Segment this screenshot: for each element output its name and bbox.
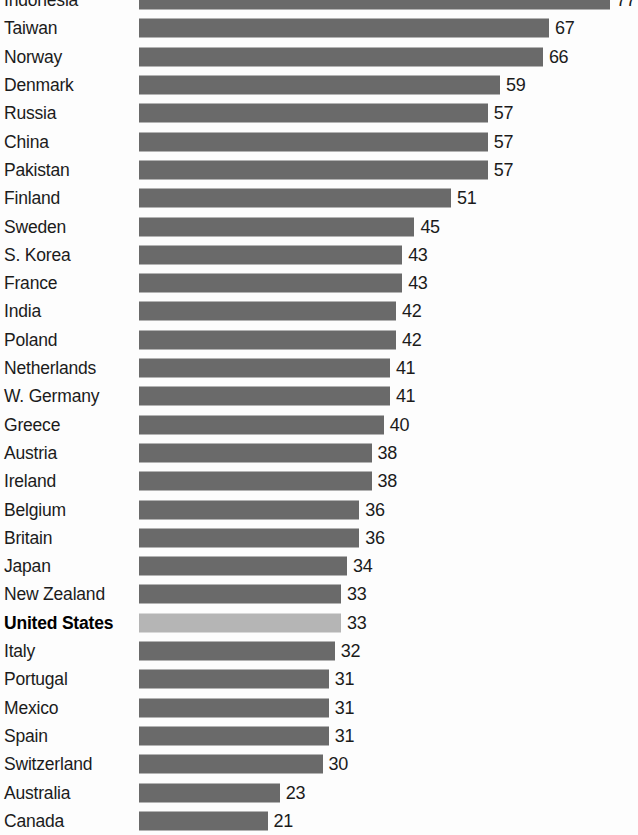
bar-row: Taiwan67 — [0, 14, 638, 42]
bar — [139, 330, 396, 349]
bar-row: Portugal31 — [0, 665, 638, 693]
category-label: Switzerland — [4, 755, 92, 774]
value-label: 40 — [390, 415, 409, 434]
bar-row: S. Korea43 — [0, 241, 638, 269]
bar — [139, 19, 549, 38]
bar-row: Indonesia77 — [0, 0, 638, 14]
category-label: France — [4, 274, 57, 293]
bar-row: Russia57 — [0, 99, 638, 127]
category-label: Canada — [4, 811, 64, 830]
bar — [139, 500, 359, 519]
value-label: 31 — [335, 670, 354, 689]
value-label: 45 — [420, 217, 439, 236]
value-label: 43 — [408, 245, 427, 264]
category-label: India — [4, 302, 41, 321]
category-label: Mexico — [4, 698, 58, 717]
value-label: 33 — [347, 613, 366, 632]
bar — [139, 387, 390, 406]
category-label: Austria — [4, 443, 57, 462]
category-label: Sweden — [4, 217, 66, 236]
value-label: 31 — [335, 726, 354, 745]
bar — [139, 726, 329, 745]
value-label: 43 — [408, 274, 427, 293]
category-label: Poland — [4, 330, 57, 349]
bar — [139, 472, 372, 491]
bar — [139, 585, 341, 604]
category-label: Belgium — [4, 500, 66, 519]
category-label: Pakistan — [4, 160, 70, 179]
value-label: 51 — [457, 189, 476, 208]
bar-row: Denmark59 — [0, 71, 638, 99]
bar — [139, 132, 488, 151]
value-label: 57 — [494, 132, 513, 151]
bar — [139, 359, 390, 378]
bar-row: Ireland38 — [0, 467, 638, 495]
category-label: United States — [4, 613, 113, 632]
bar-row: New Zealand33 — [0, 580, 638, 608]
value-label: 66 — [549, 47, 568, 66]
value-label: 21 — [274, 811, 293, 830]
bar-row: India42 — [0, 297, 638, 325]
bar — [139, 698, 329, 717]
bar-row: Greece40 — [0, 411, 638, 439]
value-label: 23 — [286, 783, 305, 802]
bar-row: China57 — [0, 128, 638, 156]
bar-row: Australia23 — [0, 778, 638, 806]
value-label: 67 — [555, 19, 574, 38]
category-label: Russia — [4, 104, 56, 123]
value-label: 31 — [335, 698, 354, 717]
bar-row: France43 — [0, 269, 638, 297]
bar — [139, 443, 372, 462]
category-label: Britain — [4, 528, 52, 547]
category-label: New Zealand — [4, 585, 105, 604]
bar — [139, 528, 359, 547]
bar-row: Sweden45 — [0, 212, 638, 240]
value-label: 38 — [378, 472, 397, 491]
bar — [139, 557, 347, 576]
bar-row: W. Germany41 — [0, 382, 638, 410]
value-label: 57 — [494, 160, 513, 179]
bar-row: Austria38 — [0, 439, 638, 467]
bar-row: Britain36 — [0, 524, 638, 552]
bar — [139, 160, 488, 179]
bar-row: Switzerland30 — [0, 750, 638, 778]
bar — [139, 274, 402, 293]
bar-row: Norway66 — [0, 43, 638, 71]
category-label: Indonesia — [4, 0, 78, 10]
bar — [139, 0, 610, 10]
category-label: Finland — [4, 189, 60, 208]
bar — [139, 642, 335, 661]
bar — [139, 245, 402, 264]
value-label: 34 — [353, 557, 372, 576]
value-label: 36 — [365, 500, 384, 519]
bar-row: Belgium36 — [0, 495, 638, 523]
category-label: Netherlands — [4, 359, 96, 378]
value-label: 41 — [396, 387, 415, 406]
bar — [139, 755, 323, 774]
category-label: W. Germany — [4, 387, 99, 406]
category-label: Australia — [4, 783, 70, 802]
value-label: 32 — [341, 642, 360, 661]
value-label: 30 — [329, 755, 348, 774]
category-label: Spain — [4, 726, 48, 745]
bar-row: Italy32 — [0, 637, 638, 665]
category-label: Greece — [4, 415, 60, 434]
category-label: Italy — [4, 642, 35, 661]
category-label: Norway — [4, 47, 62, 66]
bar-row: Poland42 — [0, 326, 638, 354]
category-label: Denmark — [4, 76, 74, 95]
bar — [139, 670, 329, 689]
bar — [139, 47, 543, 66]
bar-row: Mexico31 — [0, 694, 638, 722]
bar — [139, 613, 341, 632]
bar-row: United States33 — [0, 609, 638, 637]
category-label: Ireland — [4, 472, 56, 491]
bar — [139, 104, 488, 123]
bar-row: Pakistan57 — [0, 156, 638, 184]
bar — [139, 783, 280, 802]
value-label: 57 — [494, 104, 513, 123]
bar — [139, 217, 414, 236]
bar — [139, 811, 268, 830]
bar-row: Netherlands41 — [0, 354, 638, 382]
bar — [139, 76, 500, 95]
